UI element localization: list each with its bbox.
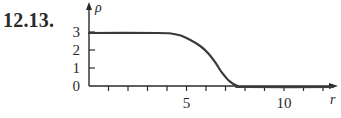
axes bbox=[86, 2, 338, 89]
density-plot: 5100123 ρ r bbox=[0, 0, 341, 118]
y-axis-label: ρ bbox=[94, 0, 102, 15]
y-tick-label: 0 bbox=[73, 78, 81, 94]
x-tick-label: 10 bbox=[277, 95, 292, 111]
x-axis-label: r bbox=[330, 92, 336, 107]
y-tick-label: 1 bbox=[73, 60, 81, 76]
density-curve bbox=[89, 33, 333, 87]
x-tick-label: 5 bbox=[183, 95, 191, 111]
y-tick-label: 3 bbox=[73, 24, 81, 40]
y-axis-arrow-icon bbox=[86, 2, 92, 10]
y-tick-label: 2 bbox=[73, 42, 81, 58]
axis-ticks bbox=[89, 32, 323, 91]
